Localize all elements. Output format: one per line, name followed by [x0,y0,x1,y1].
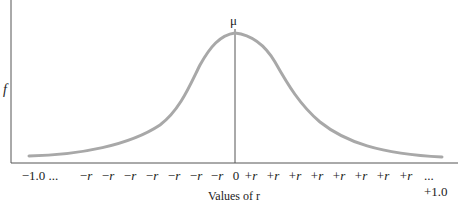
x-tick: −r [211,168,223,184]
x-tick: +r [289,168,301,184]
x-tick: −r [190,168,202,184]
x-tick: −r [102,168,114,184]
x-tick: +r [245,168,257,184]
x-tick: −r [168,168,180,184]
x-axis-label: Values of r [208,189,260,201]
x-tick: −r [80,168,92,184]
x-tick: +r [377,168,389,184]
x-tick-zero: 0 [233,168,240,184]
x-tick: +r [267,168,279,184]
x-tick: ... +1.0 [424,168,448,200]
y-axis-label: f [3,82,7,98]
mean-label: μ [230,13,237,29]
x-tick: −r [124,168,136,184]
x-tick: −1.0 ... [22,168,59,184]
x-tick: −r [146,168,158,184]
x-tick: +r [311,168,323,184]
x-tick: +r [333,168,345,184]
x-tick-labels: −1.0 ... −r −r −r −r −r −r −r −r 0 +r +r… [18,168,460,184]
x-tick: +r [355,168,367,184]
x-tick: +r [400,168,412,184]
